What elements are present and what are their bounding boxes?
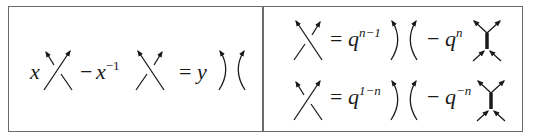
equals-sign: = — [330, 26, 342, 52]
coef-base: q — [445, 84, 456, 109]
minus-sign: − — [80, 59, 92, 85]
smoothing-icon — [388, 78, 420, 123]
coef-x: x — [30, 59, 40, 85]
coef-x-inverse: x−1 — [96, 59, 120, 85]
smoothing-icon — [216, 48, 248, 93]
coef-q-1-minus-n: q1−n — [348, 84, 381, 110]
equals-sign: = — [179, 59, 191, 85]
positive-crossing-icon — [292, 18, 324, 63]
coef-exp: 1−n — [359, 83, 381, 98]
coef-base: q — [348, 84, 359, 109]
coef-x-inv-base: x — [96, 59, 106, 84]
minus-sign: − — [427, 26, 439, 52]
panel-divider — [262, 6, 264, 132]
coef-y: y — [197, 59, 207, 85]
skein-relations-diagram: x − x−1 = y — [0, 0, 538, 138]
thick-edge-web-icon — [474, 78, 508, 124]
positive-crossing-icon — [42, 48, 74, 93]
coef-q-n: qn — [445, 26, 463, 52]
coef-exp: n — [456, 25, 463, 40]
smoothing-icon — [388, 18, 420, 63]
coef-x-inv-exp: −1 — [106, 58, 120, 73]
negative-crossing-icon — [134, 48, 166, 93]
coef-exp: −n — [456, 83, 471, 98]
coef-q-minus-n: q−n — [445, 84, 471, 110]
negative-crossing-icon — [292, 78, 324, 123]
equals-sign: = — [330, 84, 342, 110]
coef-base: q — [348, 26, 359, 51]
coef-q-n-minus-1: qn−1 — [348, 26, 381, 52]
coef-exp: n−1 — [359, 25, 381, 40]
thick-edge-web-icon — [470, 18, 504, 64]
coef-base: q — [445, 26, 456, 51]
minus-sign: − — [427, 84, 439, 110]
